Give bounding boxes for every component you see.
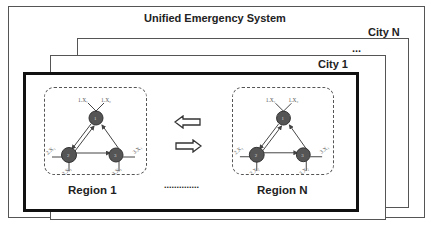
right-arrow-icon: [174, 139, 202, 153]
svg-text:3.X₁: 3.X₁: [318, 144, 330, 155]
svg-text:3.X₂: 3.X₂: [111, 165, 123, 175]
region-n-label: Region N: [257, 184, 307, 196]
svg-text:2.X₁: 2.X₁: [232, 144, 244, 155]
svg-text:1.X₁: 1.X₁: [78, 97, 88, 103]
region-1-label: Region 1: [68, 184, 117, 196]
city-1-label: City 1: [318, 58, 348, 70]
svg-text:3.X₁: 3.X₁: [131, 144, 143, 155]
left-arrow-icon: [174, 115, 202, 129]
region-n-graph: 1.X₁ 1.X₂ 2.X₁ 2.X₂ 3.X₁ 3.X₂ 1 2 3: [232, 87, 334, 175]
regions-ellipsis: ..............: [164, 180, 199, 190]
svg-text:2.X₁: 2.X₁: [44, 145, 56, 156]
region-1-graph: 1.X₁ 1.X₂ 2.X₁ 2.X₂ 3.X₁ 3.X₂ 1 2 3: [44, 87, 147, 175]
svg-text:2.X₂: 2.X₂: [61, 165, 73, 175]
svg-text:1.X₂: 1.X₂: [288, 97, 298, 103]
svg-text:3.X₂: 3.X₂: [298, 165, 310, 175]
system-title: Unified Emergency System: [144, 12, 286, 24]
city-n-label: City N: [368, 26, 400, 38]
svg-text:2.X₂: 2.X₂: [248, 165, 260, 175]
svg-text:1.X₂: 1.X₂: [101, 97, 111, 103]
svg-text:1.X₁: 1.X₁: [266, 97, 276, 103]
city-ellipsis: ...: [352, 42, 361, 54]
